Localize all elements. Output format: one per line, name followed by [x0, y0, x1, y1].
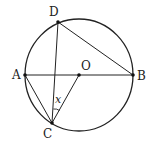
- segment-AC: [25, 75, 52, 123]
- segment-DB: [58, 22, 133, 75]
- label-angle-x: x: [55, 93, 62, 106]
- point-B: [131, 73, 135, 77]
- point-O: [77, 73, 81, 77]
- point-A: [23, 73, 27, 77]
- point-D: [56, 20, 60, 24]
- label-O: O: [81, 59, 91, 73]
- label-B: B: [137, 69, 146, 83]
- label-A: A: [11, 68, 21, 82]
- geometry-figure: D A B O C x: [0, 0, 151, 142]
- segment-DC: [52, 22, 58, 123]
- point-C: [50, 121, 54, 125]
- angle-arc-x: [53, 109, 59, 111]
- label-D: D: [49, 5, 59, 19]
- label-C: C: [43, 127, 52, 141]
